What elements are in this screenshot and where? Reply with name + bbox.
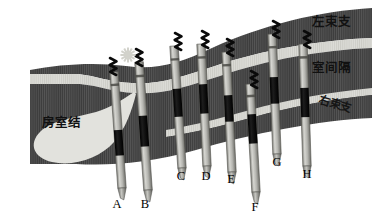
capture-spark-core: [124, 51, 132, 59]
lead-letter-label-e: E: [227, 172, 235, 186]
lead-ring-electrode: [224, 95, 234, 122]
lead-ring-electrode: [300, 88, 309, 118]
lead-letter-label-a: A: [112, 197, 121, 211]
lead-collar-marker: [246, 95, 255, 98]
lead-collar-marker: [222, 64, 231, 67]
lead-ring-electrode: [270, 77, 279, 104]
anatomy-label-interventricular-septum: 室间隔: [312, 60, 351, 75]
lead-letter-label-c: C: [177, 169, 185, 183]
lead-collar-marker: [197, 56, 206, 59]
lead-letter-label-f: F: [252, 200, 259, 214]
lead-ring-electrode: [114, 130, 124, 156]
anatomy-label-av-node: 房室结: [42, 115, 81, 130]
anatomy-label-left-bundle-branch: 左束支: [311, 14, 351, 29]
figure-canvas: 左束支室间隔右束支房室结 ABCDEFGH: [0, 0, 372, 224]
lead-letter-label-d: D: [201, 169, 210, 183]
lead-letter-label-b: B: [141, 197, 149, 211]
lead-ring-electrode: [247, 114, 257, 144]
lead-collar-marker: [268, 46, 276, 49]
conduction-system-figure: 左束支室间隔右束支房室结 ABCDEFGH: [0, 0, 372, 224]
lead-letter-label-h: H: [302, 167, 311, 181]
lead-collar-marker: [299, 56, 307, 59]
lead-letter-label-g: G: [272, 155, 281, 169]
lead-ring-electrode: [199, 84, 209, 114]
